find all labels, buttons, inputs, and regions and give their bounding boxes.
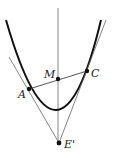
point-a: [27, 87, 31, 91]
point-m: [56, 77, 60, 81]
label-a: A: [17, 88, 26, 101]
parabola-diagram: A C M E': [0, 0, 114, 158]
label-c: C: [91, 67, 100, 80]
point-c: [85, 69, 89, 73]
tangent-line-right: [59, 20, 106, 143]
label-m: M: [43, 68, 56, 81]
label-e: E': [63, 138, 75, 151]
point-e: [57, 141, 62, 146]
